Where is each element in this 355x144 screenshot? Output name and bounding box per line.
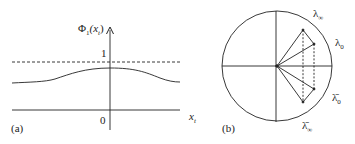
- x-axis-label: xt: [189, 111, 196, 125]
- panel-b-label: (b): [222, 123, 235, 134]
- point-lambda-bar-inf: [302, 101, 304, 103]
- panel-b-diagram: [222, 11, 332, 122]
- vector-lambda-0: [277, 44, 314, 66]
- phi-curve: [12, 68, 180, 83]
- arc-bottom: [303, 89, 314, 102]
- point-lambda-bar-0: [313, 88, 315, 90]
- vector-lambda-bar-0: [277, 66, 314, 89]
- panel-a-label: (a): [11, 123, 23, 134]
- vector-lambda-bar-inf: [277, 66, 303, 102]
- label-lambda-inf: λ∞: [313, 8, 323, 22]
- tick-label-zero: 0: [100, 115, 106, 126]
- panel-a-plot: [12, 27, 180, 130]
- arc-top: [303, 30, 314, 44]
- tick-label-one: 1: [101, 48, 107, 59]
- point-lambda-0: [313, 43, 315, 45]
- vector-lambda-inf: [277, 30, 303, 66]
- label-lambda-bar-0: λ̄0: [332, 92, 341, 106]
- y-axis-label: Φ1(xt): [78, 23, 104, 37]
- label-lambda-0: λ0: [335, 37, 344, 51]
- label-lambda-bar-inf: λ̄∞: [302, 120, 312, 134]
- point-lambda-inf: [302, 29, 304, 31]
